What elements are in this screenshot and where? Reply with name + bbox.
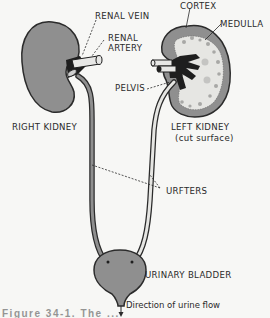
leader-renal-artery <box>92 40 104 56</box>
urinary-bladder-shape <box>94 250 146 306</box>
left-ureter <box>134 82 174 262</box>
label-left-kidney: LEFT KIDNEY <box>171 123 229 132</box>
label-urinary-bladder: URINARY BLADDER <box>145 271 231 280</box>
label-left-kidney-sub: (cut surface) <box>175 134 234 143</box>
label-cortex: CORTEX <box>180 2 216 11</box>
label-renal-vein: RENAL VEIN <box>95 12 150 21</box>
label-ureters: URFTERS <box>166 187 207 196</box>
leader-renal-vein <box>82 20 96 56</box>
urinary-system-diagram: RENAL VEIN RENAL ARTERY CORTEX MEDULLA P… <box>0 0 270 318</box>
label-medulla: MEDULLA <box>220 20 264 29</box>
label-right-kidney: RIGHT KIDNEY <box>12 123 77 132</box>
label-renal-artery-line2: ARTERY <box>108 44 142 53</box>
label-pelvis: PELVIS <box>115 84 145 93</box>
label-flow-direction: Direction of urine flow <box>126 300 220 310</box>
figure-caption-partial: Figure 34-1. The ... <box>2 308 120 318</box>
